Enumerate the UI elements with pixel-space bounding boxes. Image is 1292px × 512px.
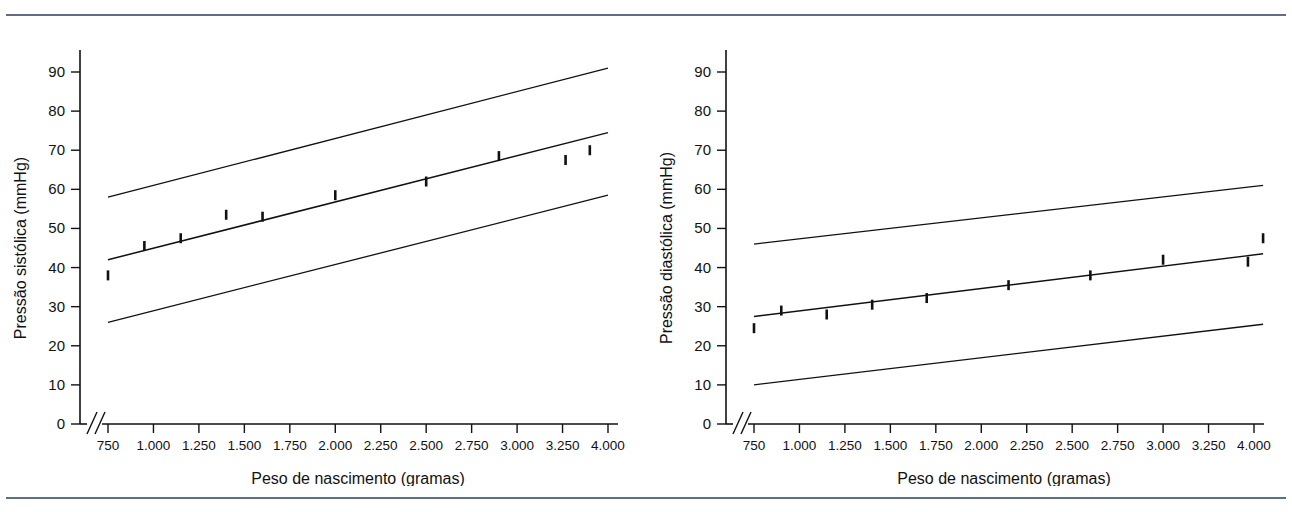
- x-tick-label: 2.750: [1101, 438, 1135, 453]
- x-axis-title: Peso de nascimento (gramas): [251, 470, 464, 486]
- series-line-ic-superior: [108, 68, 608, 197]
- y-axis-title: Pressão sistólica (mmHg): [12, 157, 29, 339]
- y-tick-label: 50: [48, 219, 65, 236]
- x-tick-label: 1.250: [828, 438, 862, 453]
- y-tick-label: 0: [703, 415, 711, 432]
- x-tick-label: 750: [743, 438, 766, 453]
- series-line-regressao: [108, 133, 608, 260]
- x-tick-label: 2.000: [964, 438, 998, 453]
- diastolic-scatter-plot: 01020304050607080907501.0001.2501.5001.7…: [646, 26, 1292, 486]
- chart-panel-systolic: 01020304050607080907501.0001.2501.5001.7…: [0, 26, 646, 486]
- chart-panel-diastolic: 01020304050607080907501.0001.2501.5001.7…: [646, 26, 1292, 486]
- y-tick-label: 50: [694, 219, 711, 236]
- top-divider-rule: [6, 14, 1286, 16]
- axis-break-slash: [733, 412, 743, 434]
- x-tick-label: 2.250: [364, 438, 398, 453]
- x-tick-label: 2.000: [318, 438, 352, 453]
- y-tick-label: 30: [48, 298, 65, 315]
- x-tick-label: 1.500: [873, 438, 907, 453]
- x-tick-label: 2.500: [1055, 438, 1089, 453]
- y-tick-label: 90: [694, 63, 711, 80]
- bottom-divider-rule: [6, 497, 1286, 499]
- y-tick-label: 70: [48, 141, 65, 158]
- x-tick-label: 1.750: [919, 438, 953, 453]
- y-tick-label: 30: [694, 298, 711, 315]
- x-tick-label: 1.250: [182, 438, 216, 453]
- axis-break-slash: [741, 412, 751, 434]
- y-tick-label: 70: [694, 141, 711, 158]
- x-tick-label: 3.000: [1146, 438, 1180, 453]
- x-axis-title: Peso de nascimento (gramas): [897, 470, 1110, 486]
- y-tick-label: 0: [57, 415, 65, 432]
- y-tick-label: 60: [48, 180, 65, 197]
- y-tick-label: 60: [694, 180, 711, 197]
- y-axis-title: Pressão diastólica (mmHg): [658, 152, 675, 344]
- x-tick-label: 2.250: [1010, 438, 1044, 453]
- x-tick-label: 3.000: [500, 438, 534, 453]
- x-tick-label: 1.000: [783, 438, 817, 453]
- y-tick-label: 10: [694, 376, 711, 393]
- x-tick-label: 4.000: [1237, 438, 1271, 453]
- figure-page: 01020304050607080907501.0001.2501.5001.7…: [0, 0, 1292, 512]
- axis-break-slash: [87, 412, 97, 434]
- y-tick-label: 40: [694, 259, 711, 276]
- y-tick-label: 90: [48, 63, 65, 80]
- y-tick-label: 80: [48, 102, 65, 119]
- x-tick-label: 2.500: [409, 438, 443, 453]
- x-tick-label: 2.750: [455, 438, 489, 453]
- series-line-ic-inferior: [754, 324, 1263, 385]
- y-tick-label: 20: [48, 337, 65, 354]
- y-tick-label: 20: [694, 337, 711, 354]
- series-line-ic-inferior: [108, 195, 608, 322]
- x-tick-label: 1.750: [273, 438, 307, 453]
- x-tick-label: 1.000: [137, 438, 171, 453]
- x-tick-label: 3.250: [1192, 438, 1226, 453]
- y-tick-label: 10: [48, 376, 65, 393]
- systolic-scatter-plot: 01020304050607080907501.0001.2501.5001.7…: [0, 26, 646, 486]
- y-tick-label: 80: [694, 102, 711, 119]
- x-tick-label: 4.000: [591, 438, 625, 453]
- x-tick-label: 1.500: [227, 438, 261, 453]
- axis-break-slash: [95, 412, 105, 434]
- x-tick-label: 3.250: [546, 438, 580, 453]
- y-tick-label: 40: [48, 259, 65, 276]
- x-tick-label: 750: [97, 438, 120, 453]
- series-line-ic-superior: [754, 185, 1263, 244]
